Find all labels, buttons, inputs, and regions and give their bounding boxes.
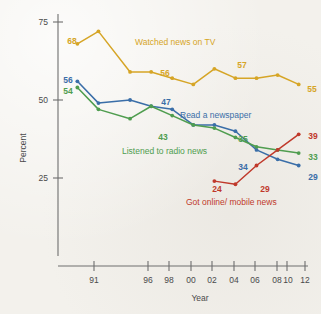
data-point [255,76,259,80]
value-label-np-34: 34 [238,162,248,172]
data-point [149,70,153,74]
data-point [170,114,174,118]
data-point [255,145,259,149]
y-tick-label-25: 25 [39,173,49,183]
x-tick-label-10: 10 [283,275,293,285]
data-point [276,157,280,161]
x-tick-label-02: 02 [207,275,217,285]
series-label-radio: Listened to radio news [122,146,207,156]
data-point [170,76,174,80]
data-point [212,179,216,183]
data-point [212,67,216,71]
x-tick-label-00: 00 [186,275,196,285]
series-layer [75,29,300,186]
value-label-on-29: 29 [260,184,270,194]
data-point [297,83,301,87]
value-label-tv-68: 68 [67,36,77,46]
data-point [297,132,301,136]
x-tick-label-91: 91 [89,275,99,285]
line-chart: 75 50 25 Percent 91 96 98 00 02 04 06 08… [0,0,321,314]
x-axis-title: Year [191,293,208,303]
x-tick-label-06: 06 [250,275,260,285]
value-label-rd-35: 35 [238,134,248,144]
data-point [276,148,280,152]
data-point [97,107,101,111]
series-line [214,134,298,184]
data-point [297,164,301,168]
data-point [212,126,216,130]
value-label-rd-43: 43 [158,132,168,142]
series-label-online: Got online/ mobile news [186,197,277,207]
series-label-newspaper: Read a newspaper [180,110,252,120]
data-point [234,136,238,140]
data-point [276,73,280,77]
value-label-on-39: 39 [308,131,318,141]
x-tick-label-96: 96 [143,275,153,285]
y-tick-label-50: 50 [39,95,49,105]
data-point [170,107,174,111]
data-point [255,164,259,168]
chart-container: 75 50 25 Percent 91 96 98 00 02 04 06 08… [0,0,321,314]
y-axis-title: Percent [18,133,28,163]
data-point [149,104,153,108]
series-label-tv: Watched news on TV [135,37,216,47]
value-label-np-47: 47 [161,97,171,107]
value-label-on-24: 24 [212,184,222,194]
x-tick-label-04: 04 [229,275,239,285]
series-got-online-mobile-news [212,132,300,186]
data-point [128,117,132,121]
value-label-np-56: 56 [63,75,73,85]
data-point [234,182,238,186]
x-tick-label-12: 12 [300,275,310,285]
value-label-rd-54: 54 [63,86,73,96]
value-label-tv-57: 57 [237,60,247,70]
data-point [297,151,301,155]
data-point [191,83,195,87]
x-tick-label-98: 98 [164,275,174,285]
data-point [234,76,238,80]
data-point [75,86,79,90]
data-point [97,101,101,105]
value-label-np-29: 29 [308,172,318,182]
value-label-tv-55: 55 [307,84,317,94]
data-point [128,98,132,102]
data-point [128,70,132,74]
value-label-tv-56: 56 [160,68,170,78]
x-tick-label-08: 08 [272,275,282,285]
data-point [97,29,101,33]
data-point [191,123,195,127]
data-point [234,129,238,133]
value-label-rd-33: 33 [308,152,318,162]
data-point [75,79,79,83]
y-tick-label-75: 75 [39,17,49,27]
